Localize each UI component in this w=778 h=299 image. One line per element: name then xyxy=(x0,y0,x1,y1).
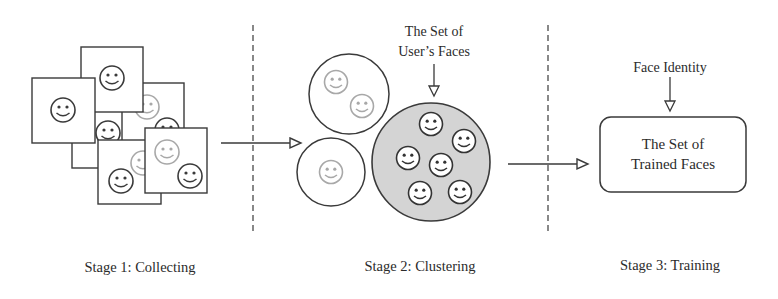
face-icon xyxy=(109,169,133,193)
face-icon xyxy=(178,164,202,188)
face-icon xyxy=(409,182,432,205)
arrow-stage1-to-stage2 xyxy=(221,138,301,148)
face-icon xyxy=(397,147,420,170)
face-icon-faded xyxy=(351,95,374,118)
stage1-label: Stage 1: Collecting xyxy=(60,258,220,276)
face-icon xyxy=(430,154,453,177)
trained-faces-line2: Trained Faces xyxy=(600,154,746,174)
face-icon xyxy=(420,113,443,136)
trained-faces-box-text: The Set of Trained Faces xyxy=(600,134,746,174)
photo-left xyxy=(32,78,95,143)
arrow-users-faces-label xyxy=(429,64,439,96)
face-identity-label: Face Identity xyxy=(620,59,720,77)
cluster-small-bottom xyxy=(297,138,365,206)
face-icon xyxy=(100,66,124,90)
stage2-label: Stage 2: Clustering xyxy=(340,257,500,275)
users-faces-label-line1: The Set of xyxy=(384,23,484,41)
stage1-photo-stack xyxy=(32,47,207,204)
face-icon xyxy=(51,98,75,122)
stage3-label: Stage 3: Training xyxy=(590,256,750,274)
users-faces-label: The Set of User’s Faces xyxy=(384,23,484,61)
users-faces-label-line2: User’s Faces xyxy=(384,43,484,61)
face-icon-faded xyxy=(155,140,179,164)
face-icon-faded xyxy=(320,161,343,184)
cluster-users-faces xyxy=(372,103,490,221)
face-icon xyxy=(453,130,476,153)
photo-front-right xyxy=(145,128,207,193)
arrow-face-identity xyxy=(665,77,675,111)
cluster-small-top xyxy=(309,54,389,134)
trained-faces-line1: The Set of xyxy=(600,134,746,154)
face-icon xyxy=(449,181,472,204)
face-icon-faded xyxy=(325,71,348,94)
